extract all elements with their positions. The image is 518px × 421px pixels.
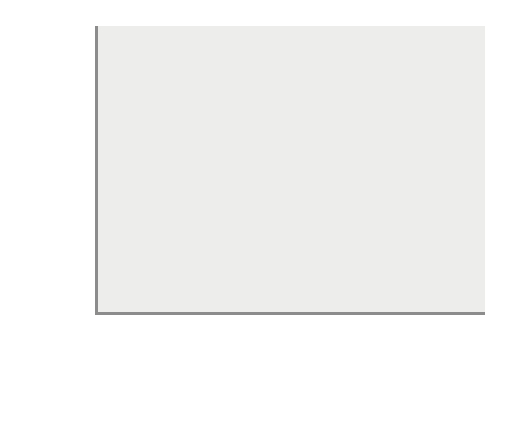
y-axis-line: [95, 26, 98, 315]
plot-area: [98, 26, 485, 312]
y-axis-title: [46, 2, 70, 302]
bar-chart-figure: [0, 0, 518, 421]
x-axis-line: [95, 312, 485, 315]
